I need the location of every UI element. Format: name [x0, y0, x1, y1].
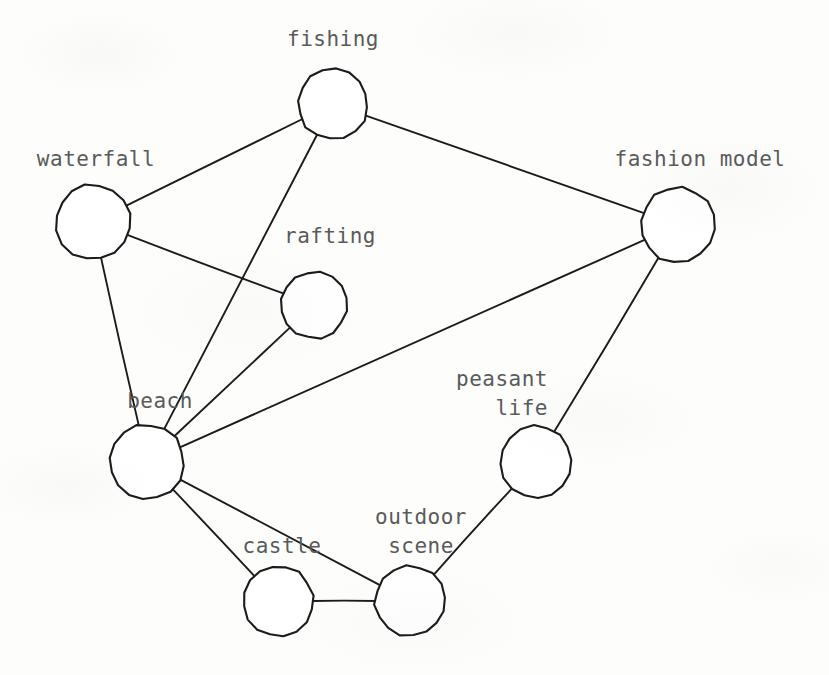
graph-canvas: fishingwaterfallfashion modelraftingbeac…	[0, 0, 829, 675]
graph-node-fishing[interactable]	[298, 68, 367, 138]
graph-node-peasant_life[interactable]	[501, 425, 572, 498]
node-label-line: beach	[30, 387, 290, 416]
graph-node-fashion_model[interactable]	[641, 187, 715, 262]
graph-node-waterfall[interactable]	[56, 185, 130, 259]
node-label-rafting: rafting	[200, 222, 460, 251]
node-label-line: fashion model	[570, 145, 829, 174]
node-label-line: outdoor	[291, 503, 551, 532]
graph-node-castle[interactable]	[244, 567, 313, 636]
node-label-line: life	[288, 394, 548, 423]
graph-edge	[554, 256, 660, 432]
node-label-line: fishing	[203, 25, 463, 54]
graph-edge	[173, 327, 291, 437]
node-label-line: waterfall	[0, 145, 226, 174]
node-label-fishing: fishing	[203, 25, 463, 54]
graph-node-outdoor_scene[interactable]	[374, 565, 445, 635]
node-label-fashion_model: fashion model	[570, 145, 829, 174]
node-label-line: peasant	[288, 365, 548, 394]
node-label-line: rafting	[200, 222, 460, 251]
node-label-beach: beach	[30, 387, 290, 416]
node-label-peasant_life: peasantlife	[288, 365, 548, 423]
node-label-line: scene	[291, 532, 551, 561]
graph-svg	[0, 0, 829, 675]
node-label-waterfall: waterfall	[0, 145, 226, 174]
graph-node-rafting[interactable]	[281, 272, 347, 339]
node-label-outdoor_scene: outdoorscene	[291, 503, 551, 561]
graph-node-beach[interactable]	[110, 425, 184, 499]
